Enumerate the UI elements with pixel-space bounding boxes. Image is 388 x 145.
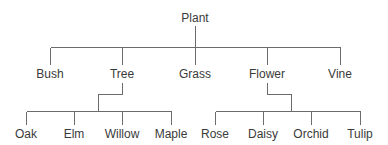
node-rose: Rose bbox=[201, 128, 229, 141]
node-vine: Vine bbox=[328, 68, 352, 81]
node-daisy: Daisy bbox=[248, 128, 278, 141]
node-maple: Maple bbox=[155, 128, 188, 141]
node-grass: Grass bbox=[179, 68, 211, 81]
node-flower: Flower bbox=[249, 68, 285, 81]
node-bush: Bush bbox=[36, 68, 63, 81]
node-tulip: Tulip bbox=[347, 128, 373, 141]
node-oak: Oak bbox=[15, 128, 37, 141]
node-elm: Elm bbox=[64, 128, 85, 141]
tree-diagram: Plant Bush Tree Grass Flower Vine Oak El… bbox=[0, 0, 388, 145]
node-orchid: Orchid bbox=[293, 128, 328, 141]
node-tree: Tree bbox=[110, 68, 134, 81]
node-willow: Willow bbox=[105, 128, 140, 141]
node-plant: Plant bbox=[181, 12, 208, 25]
